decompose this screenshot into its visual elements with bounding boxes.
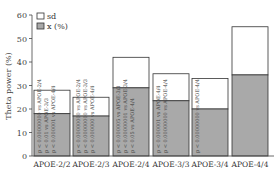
x-category-label: APOE-3/4 <box>191 160 229 169</box>
mean-segment <box>232 75 268 156</box>
significance-annotation: p < 0.05 vs APOE-4/4 <box>129 98 136 153</box>
y-axis-title: Theta power (%) <box>4 52 13 119</box>
x-category-label: APOE-4/4 <box>231 160 269 169</box>
sd-segment <box>232 27 268 75</box>
y-axis: 0102030405060 <box>17 11 32 161</box>
significance-annotation: p < 0.00000000 vs APOE-2/4 <box>75 79 82 153</box>
x-category-label: APOE-3/3 <box>152 160 190 169</box>
bar-group: p < 0.000005 vs APOE-3/3p < 0.00000001 v… <box>113 57 149 156</box>
significance-annotation: p < 0.01 vs APOE-3/3 <box>43 98 50 153</box>
y-tick-label: 40 <box>17 58 27 67</box>
theta-power-bar-chart: 0102030405060 Theta power (%) p < 0.0000… <box>0 0 277 171</box>
y-tick-label: 30 <box>17 82 27 91</box>
y-tick-label: 10 <box>17 129 27 138</box>
significance-annotation: p < 0.00000000 vs APOE-4/4 <box>194 79 201 153</box>
y-tick-label: 20 <box>17 105 27 114</box>
legend: sdx (%) <box>37 12 68 31</box>
legend-swatch <box>37 13 44 19</box>
bar-group <box>232 27 268 156</box>
significance-annotation: p < 0.000000 vs APOE-4/4 <box>89 85 96 153</box>
significance-annotation: p < 0.000005 vs APOE-3/3 <box>115 85 122 153</box>
legend-label: x (%) <box>47 22 68 31</box>
significance-annotation: p < 0.000001 vs APOE-4/4 <box>155 85 162 153</box>
x-axis-labels: APOE-2/2APOE-2/3APOE-2/4APOE-3/3APOE-3/4… <box>33 160 269 169</box>
bar-group: p < 0.00000000 vs APOE-2/4p < 0.01 vs AP… <box>34 79 70 156</box>
bar-group: p < 0.00000000 vs APOE-4/4 <box>192 78 228 156</box>
x-category-label: APOE-2/2 <box>33 160 71 169</box>
significance-annotation: p < 0.000001 vs APOE-4/4 <box>50 85 57 153</box>
bar-group: p < 0.000001 vs APOE-4/4p < 0.00000000 v… <box>153 74 189 156</box>
significance-annotation: p < 0.00000000 vs APOE-3/3 <box>82 79 89 153</box>
y-tick-label: 0 <box>22 152 27 161</box>
x-category-label: APOE-2/3 <box>72 160 110 169</box>
y-tick-label: 50 <box>17 35 27 44</box>
sd-segment <box>113 57 149 88</box>
bar-group: p < 0.00000000 vs APOE-2/4p < 0.00000000… <box>73 79 109 156</box>
legend-swatch <box>37 23 44 29</box>
significance-annotation: p < 0.00000001 vs APOE-3/4 <box>122 79 129 153</box>
bars: p < 0.00000000 vs APOE-2/4p < 0.01 vs AP… <box>34 27 268 156</box>
x-category-label: APOE-2/4 <box>112 160 150 169</box>
significance-annotation: p < 0.00000000 vs APOE-4/4 <box>162 79 169 153</box>
significance-annotation: p < 0.00000000 vs APOE-2/4 <box>36 79 43 153</box>
y-tick-label: 60 <box>17 11 27 20</box>
legend-label: sd <box>47 12 56 21</box>
